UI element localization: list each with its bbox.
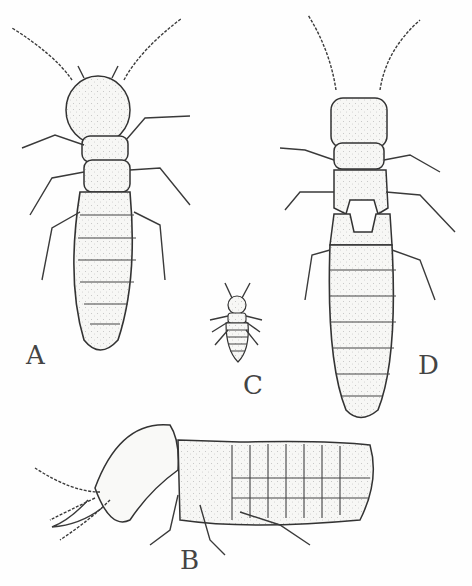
label-c: C	[243, 370, 263, 400]
specimen-b	[35, 425, 373, 555]
termite-illustration: A C D B	[0, 0, 472, 586]
label-a: A	[26, 340, 45, 370]
specimen-c	[210, 283, 262, 362]
label-b: B	[180, 545, 199, 575]
label-d: D	[418, 350, 439, 380]
illustration-drawing	[0, 0, 472, 586]
specimen-a	[12, 18, 190, 350]
